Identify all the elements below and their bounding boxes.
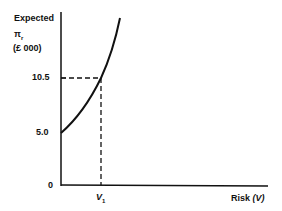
y-axis-label-pi: πr (14, 29, 23, 41)
x-axis (61, 185, 268, 186)
chart-canvas (0, 0, 282, 211)
x-tick-v1: V1 (96, 192, 105, 204)
y-axis-label-units: (£ 000) (13, 43, 42, 53)
return-risk-curve (61, 18, 120, 133)
x-axis-label: Risk (V) (231, 193, 265, 203)
y-axis-label-expected: Expected (14, 13, 54, 23)
y-tick-5-0: 5.0 (36, 127, 49, 137)
y-tick-10-5: 10.5 (32, 72, 50, 82)
y-tick-0: 0 (48, 180, 53, 190)
